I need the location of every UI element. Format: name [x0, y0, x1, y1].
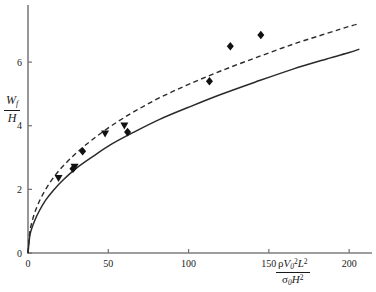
figure-container: 050100150200 0246 Wf H ρV02L2 σ0H2	[0, 0, 376, 292]
y-tick-label: 2	[17, 184, 22, 195]
x-tick-label: 200	[342, 258, 357, 269]
data-point-diamond	[257, 31, 264, 40]
data-point-diamond	[206, 77, 213, 86]
x-tick-label: 100	[181, 258, 196, 269]
x-axis-label: ρV02L2 σ0H2	[276, 258, 310, 287]
data-point-diamond	[227, 42, 234, 51]
scatter-plot: 050100150200 0246	[0, 0, 376, 292]
y-tick-label: 6	[17, 57, 22, 68]
axes-group	[28, 5, 372, 253]
y-axis-label-numerator: Wf	[4, 94, 20, 111]
y-axis-ticks: 0246	[17, 57, 32, 259]
upper-theory-curve	[28, 24, 359, 253]
x-tick-label: 150	[261, 258, 276, 269]
data-point-diamond	[79, 147, 86, 156]
x-tick-label: 50	[103, 258, 113, 269]
x-axis-label-numerator: ρV02L2	[276, 258, 310, 273]
y-tick-label: 0	[17, 248, 22, 259]
x-tick-label: 0	[26, 258, 31, 269]
data-point-diamond	[124, 128, 131, 137]
y-axis-label: Wf H	[4, 94, 20, 124]
lower-theory-curve	[28, 49, 359, 253]
y-axis-label-denominator: H	[4, 111, 20, 125]
triangle-data-markers	[55, 122, 129, 182]
data-point-triangle	[101, 130, 109, 137]
x-axis-label-denominator: σ0H2	[276, 273, 310, 287]
